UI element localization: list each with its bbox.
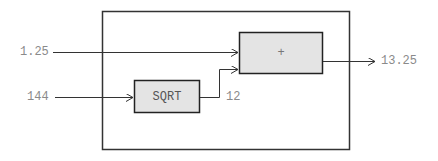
input-label-2: 144 bbox=[27, 90, 49, 104]
sqrt-output-value: 12 bbox=[226, 90, 240, 104]
diagram-canvas bbox=[0, 0, 438, 161]
input-label-1: 1.25 bbox=[20, 45, 49, 59]
output-label: 13.25 bbox=[381, 54, 417, 68]
sum-block-label: + bbox=[239, 46, 323, 60]
sqrt-block-label: SQRT bbox=[134, 90, 200, 104]
